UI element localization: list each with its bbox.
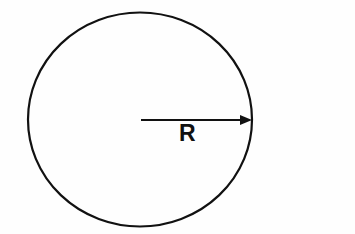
figure-canvas: R	[0, 0, 355, 234]
circle-radius-diagram: R	[0, 0, 355, 234]
radius-arrow-head	[240, 115, 252, 125]
radius-label: R	[179, 120, 196, 146]
